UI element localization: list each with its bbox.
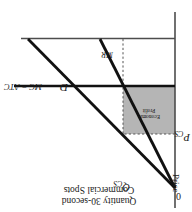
demand-label: D (60, 82, 68, 93)
quantity-marker-letter: Q (122, 182, 130, 193)
price-marker-letter: P (184, 132, 190, 143)
economic-profit-label: Economic Profit (128, 107, 170, 120)
figure-root: 0 Quantity 30-second Commercial Spots QC… (0, 0, 192, 212)
price-marker-label: PCS (175, 129, 190, 142)
economic-profit-line2: Profit (143, 108, 155, 114)
price-axis-title: Price (171, 174, 180, 193)
origin-label: 0 (176, 191, 181, 201)
mc-atc-label: MC = ATC (4, 83, 42, 92)
graph-drawing (0, 0, 192, 212)
price-marker-subscript: CS (175, 129, 184, 138)
quantity-axis-title: Quantity 30-second Commercial Spots (34, 184, 164, 206)
marginal-revenue-label: MR (101, 50, 113, 58)
quantity-marker-label: QCS (114, 179, 130, 192)
economic-profit-line1: Economic (138, 114, 160, 120)
quantity-axis-title-line1: Quantity 30-second (62, 196, 137, 206)
rotated-figure-canvas: 0 Quantity 30-second Commercial Spots QC… (0, 0, 192, 212)
quantity-marker-subscript: CS (114, 179, 123, 188)
